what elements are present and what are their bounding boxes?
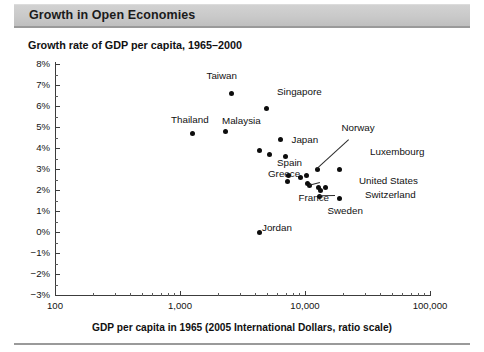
data-point-label: Malaysia — [222, 115, 261, 126]
y-tick-label: 4% — [14, 142, 50, 153]
y-tick-label: −1% — [14, 247, 50, 258]
y-tick-mark — [55, 106, 60, 107]
y-tick-mark — [55, 64, 60, 65]
x-tick-minor — [411, 293, 412, 296]
y-tick-minor — [55, 138, 58, 139]
y-tick-minor — [55, 264, 58, 265]
x-tick-minor — [424, 293, 425, 296]
y-tick-mark — [55, 169, 60, 170]
y-tick-mark — [55, 190, 60, 191]
data-point-label: Luxembourg — [370, 146, 424, 157]
footer-divider-rule — [14, 343, 470, 345]
figure-root: Growth in Open Economies Growth rate of … — [0, 0, 484, 352]
x-tick-mark — [430, 291, 431, 296]
x-tick-minor — [380, 293, 381, 296]
y-tick-minor — [55, 201, 58, 202]
data-point-label: Greece — [268, 168, 300, 179]
data-point — [257, 148, 262, 153]
x-tick-minor — [255, 293, 256, 296]
data-point-label: United States — [359, 175, 418, 186]
x-axis-label: GDP per capita in 1965 (2005 Internation… — [0, 322, 484, 333]
x-tick-minor — [299, 293, 300, 296]
x-tick-minor — [93, 293, 94, 296]
data-point — [318, 188, 323, 193]
y-tick-mark — [55, 232, 60, 233]
y-tick-minor — [55, 243, 58, 244]
scatter-plot-area: 8%7%6%5%4%3%2%1%0%−1%−2%−3% 1001,00010,0… — [0, 0, 484, 352]
x-tick-minor — [161, 293, 162, 296]
y-tick-mark — [55, 127, 60, 128]
data-point-label: Switzerland — [365, 189, 416, 200]
y-tick-label: −3% — [14, 289, 50, 300]
x-tick-minor — [418, 293, 419, 296]
data-point — [337, 196, 342, 201]
y-tick-mark — [55, 253, 60, 254]
x-tick-label: 100,000 — [413, 300, 448, 311]
data-point — [298, 175, 303, 180]
y-tick-minor — [55, 159, 58, 160]
x-tick-minor — [218, 293, 219, 296]
x-axis-line — [55, 295, 430, 296]
y-tick-minor — [55, 285, 58, 286]
y-tick-minor — [55, 222, 58, 223]
x-tick-minor — [343, 293, 344, 296]
label-leader-line — [316, 139, 349, 169]
y-tick-label: 6% — [14, 100, 50, 111]
y-tick-label: 1% — [14, 205, 50, 216]
y-tick-mark — [55, 85, 60, 86]
x-tick-minor — [267, 293, 268, 296]
x-tick-minor — [174, 293, 175, 296]
x-tick-mark — [55, 291, 56, 296]
x-tick-minor — [392, 293, 393, 296]
y-tick-label: 0% — [14, 226, 50, 237]
data-point-label: Jordan — [262, 222, 292, 233]
x-tick-minor — [293, 293, 294, 296]
data-point — [278, 137, 283, 142]
y-tick-minor — [55, 75, 58, 76]
y-tick-minor — [55, 180, 58, 181]
data-point — [304, 173, 309, 178]
data-point — [267, 152, 272, 157]
x-tick-mark — [305, 291, 306, 296]
x-tick-minor — [152, 293, 153, 296]
y-tick-mark — [55, 148, 60, 149]
y-tick-mark — [55, 211, 60, 212]
data-point-label: Spain — [277, 157, 302, 168]
y-tick-minor — [55, 117, 58, 118]
x-tick-minor — [402, 293, 403, 296]
x-tick-minor — [286, 293, 287, 296]
x-tick-minor — [142, 293, 143, 296]
y-tick-mark — [55, 274, 60, 275]
x-tick-minor — [168, 293, 169, 296]
x-tick-minor — [240, 293, 241, 296]
y-tick-label: −2% — [14, 268, 50, 279]
x-tick-label: 10,000 — [290, 300, 319, 311]
data-point-label: Thailand — [171, 114, 209, 125]
data-point-label: Sweden — [328, 205, 363, 216]
y-tick-label: 7% — [14, 79, 50, 90]
data-point — [257, 230, 262, 235]
data-point — [323, 185, 328, 190]
data-point — [337, 167, 342, 172]
data-point-label: Japan — [292, 134, 319, 145]
data-point-label: Singapore — [277, 86, 322, 97]
y-tick-label: 2% — [14, 184, 50, 195]
x-tick-mark — [180, 291, 181, 296]
y-tick-label: 8% — [14, 58, 50, 69]
label-leader-line — [319, 195, 335, 196]
data-point — [190, 131, 195, 136]
x-tick-label: 100 — [47, 300, 63, 311]
data-point — [285, 179, 290, 184]
y-tick-label: 3% — [14, 163, 50, 174]
data-point — [223, 129, 228, 134]
x-tick-minor — [277, 293, 278, 296]
x-tick-minor — [130, 293, 131, 296]
y-tick-minor — [55, 96, 58, 97]
x-tick-minor — [115, 293, 116, 296]
data-point — [229, 91, 234, 96]
data-point — [264, 106, 269, 111]
y-tick-label: 5% — [14, 121, 50, 132]
data-point-label: Taiwan — [207, 70, 238, 81]
data-point-label: France — [299, 192, 330, 203]
x-tick-label: 1,000 — [168, 300, 192, 311]
